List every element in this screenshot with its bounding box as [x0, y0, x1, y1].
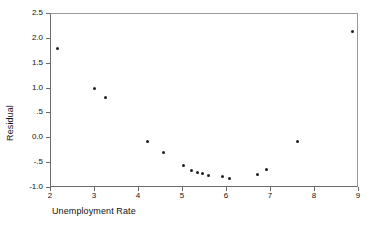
data-point — [228, 177, 231, 180]
x-axis-tick-label: 9 — [348, 192, 368, 200]
y-axis-tick-label: 2.5 — [17, 9, 43, 17]
data-point — [221, 175, 224, 178]
y-axis-tick-label: 1.0 — [17, 84, 43, 92]
y-axis-title: Residual — [5, 91, 15, 155]
x-axis-title: Unemployment Rate — [52, 206, 136, 216]
data-point — [256, 173, 259, 176]
x-axis-tick-label: 6 — [216, 192, 236, 200]
y-axis-tick-label: 1.5 — [17, 59, 43, 67]
data-point-layer — [51, 14, 357, 186]
data-point — [207, 174, 210, 177]
y-axis-tick-label: 0.0 — [17, 133, 43, 141]
data-point — [182, 164, 185, 167]
plot-area — [50, 13, 358, 187]
y-axis-tick-label: -1.0 — [17, 183, 43, 191]
x-axis-tick-label: 4 — [128, 192, 148, 200]
x-axis-tick-label: 7 — [260, 192, 280, 200]
data-point — [104, 96, 107, 99]
x-axis-tick-label: 5 — [172, 192, 192, 200]
data-point — [146, 140, 149, 143]
scatter-plot-figure: -1.0-.50.0.51.01.52.02.523456789 Unemplo… — [0, 0, 378, 228]
y-axis-tick-label: 2.0 — [17, 34, 43, 42]
data-point — [201, 172, 204, 175]
y-axis-tick — [46, 137, 50, 138]
data-point — [265, 168, 268, 171]
y-axis-tick-label: .5 — [17, 108, 43, 116]
y-axis-tick — [46, 38, 50, 39]
y-axis-tick — [46, 63, 50, 64]
y-axis-tick — [46, 88, 50, 89]
y-axis-tick — [46, 162, 50, 163]
data-point — [162, 151, 165, 154]
y-axis-tick — [46, 13, 50, 14]
y-axis-tick — [46, 112, 50, 113]
data-point — [56, 47, 59, 50]
data-point — [196, 171, 199, 174]
data-point — [351, 30, 354, 33]
x-axis-tick-label: 8 — [304, 192, 324, 200]
x-axis-tick-label: 2 — [40, 192, 60, 200]
data-point — [93, 87, 96, 90]
x-axis-tick-label: 3 — [84, 192, 104, 200]
data-point — [296, 140, 299, 143]
y-axis-tick-label: -.5 — [17, 158, 43, 166]
data-point — [190, 169, 193, 172]
